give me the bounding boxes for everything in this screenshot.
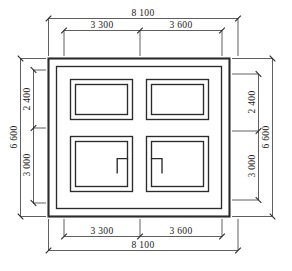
floor-plan-drawing: 8 100 3 300 3 600 3 300 3 600 8 100 6 60… (0, 0, 292, 271)
dim-label-left-overall: 6 600 (9, 126, 19, 149)
dim-label-left-segment-2: 3 000 (22, 154, 32, 177)
room-bottom-left-inner (76, 142, 128, 187)
dim-label-bottom-overall: 8 100 (132, 240, 155, 250)
room-top-right-inner (152, 85, 204, 115)
dim-label-top-overall: 8 100 (132, 8, 155, 18)
dim-label-top-segment-2: 3 600 (170, 20, 193, 30)
room-top-left-inner (76, 85, 128, 115)
door-mark-bottom-right (152, 159, 163, 173)
dim-label-left-segment-1: 2 400 (22, 88, 32, 111)
building-outline-group (49, 59, 230, 217)
room-top-right-outer (147, 80, 209, 120)
dim-label-bottom-segment-2: 3 600 (170, 226, 193, 236)
dim-label-bottom-segment-1: 3 300 (91, 226, 114, 236)
outer-wall-rect (49, 59, 230, 217)
dim-label-right-segment-2: 3 000 (247, 155, 257, 178)
dim-label-right-segment-1: 2 400 (247, 91, 257, 114)
room-bottom-right-inner (152, 142, 204, 187)
dim-label-right-overall: 6 600 (261, 126, 271, 149)
room-bottom-left-outer (71, 137, 133, 192)
plan-canvas: 8 100 3 300 3 600 3 300 3 600 8 100 6 60… (0, 0, 292, 271)
door-mark-bottom-left (117, 159, 127, 173)
room-bottom-right-outer (147, 137, 209, 192)
dim-label-top-segment-1: 3 300 (91, 20, 114, 30)
inner-wall-rect (57, 67, 222, 209)
room-top-left-outer (71, 80, 133, 120)
